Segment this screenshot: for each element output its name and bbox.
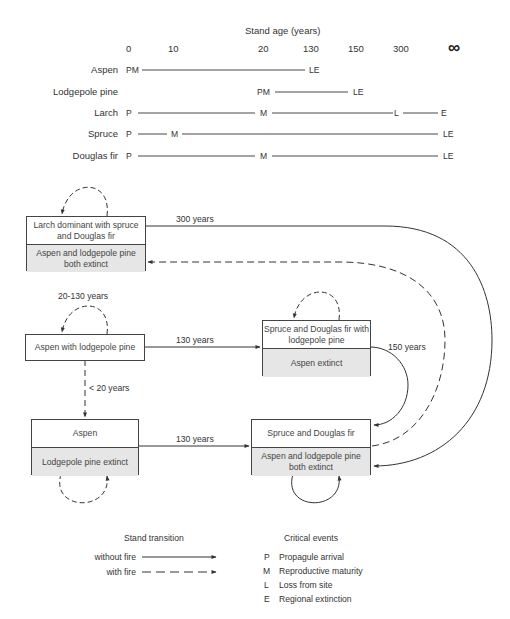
legend-label-l: Loss from site [279, 580, 333, 590]
label-150-years: 150 years [388, 342, 426, 352]
label-130-years-b: 130 years [176, 434, 214, 444]
label-lt-20-years: < 20 years [89, 383, 129, 393]
state-larch-dominant: Larch dominant with spruce and Douglas f… [26, 216, 146, 271]
legend-without-fire: without fire [94, 552, 136, 562]
legend-code-l: L [264, 580, 269, 590]
legend-transition-title: Stand transition [124, 533, 184, 543]
legend-label-e: Regional extinction [279, 594, 352, 604]
state-spruce-df-lodgepole: Spruce and Douglas fir with lodgepole pi… [262, 320, 371, 376]
diagram-lines [0, 0, 510, 619]
state-sdf-bottom: Aspen and lodgepole pine both extinct [252, 447, 370, 476]
state-spruce-df: Spruce and Douglas fir Aspen and lodgepo… [251, 419, 371, 475]
legend-code-m: M [263, 566, 270, 576]
state-aspen-with-lodgepole: Aspen with lodgepole pine [25, 334, 145, 361]
label-130-years-a: 130 years [176, 335, 214, 345]
label-300-years: 300 years [176, 214, 214, 224]
state-sdl-bottom: Aspen extinct [263, 348, 370, 377]
legend-events-title: Critical events [284, 533, 338, 543]
legend-code-e: E [264, 594, 270, 604]
legend-with-fire: with fire [106, 567, 136, 577]
state-sdl-top: Spruce and Douglas fir with lodgepole pi… [263, 321, 370, 348]
state-aspen-bottom: Lodgepole pine extinct [32, 447, 138, 476]
state-aspen: Aspen Lodgepole pine extinct [31, 419, 139, 475]
label-20-130-years: 20-130 years [58, 291, 108, 301]
state-larch-bottom: Aspen and lodgepole pine both extinct [27, 244, 145, 272]
legend-code-p: P [264, 552, 270, 562]
state-larch-top: Larch dominant with spruce and Douglas f… [27, 217, 145, 244]
legend-label-m: Reproductive maturity [279, 566, 363, 576]
legend-label-p: Propagule arrival [279, 552, 344, 562]
state-aspen-lodgepole-top: Aspen with lodgepole pine [26, 335, 144, 360]
state-sdf-top: Spruce and Douglas fir [252, 420, 370, 447]
state-aspen-top: Aspen [32, 420, 138, 447]
